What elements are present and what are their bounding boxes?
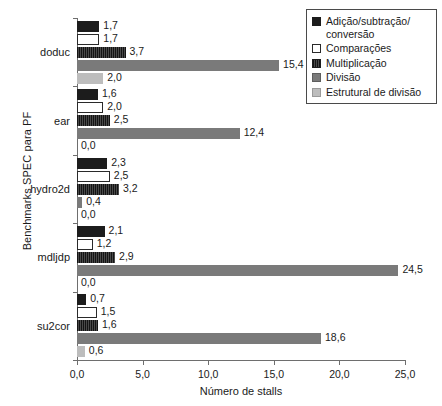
- bar-group: mdljdp2,11,22,924,50,0: [77, 225, 405, 290]
- x-axis-title: Número de stalls: [77, 385, 405, 397]
- bar: [77, 171, 110, 182]
- bar-value-label: 2,5: [114, 169, 129, 182]
- x-axis-tick-label: 15,0: [264, 368, 284, 380]
- x-axis-tick: [77, 360, 78, 365]
- bar: [77, 197, 82, 208]
- x-axis-tick: [405, 360, 406, 365]
- bar-value-label: 2,3: [111, 156, 126, 169]
- bar-row: 2,9: [77, 251, 405, 264]
- bar-value-label: 1,7: [103, 19, 118, 32]
- bar-group: su2cor0,71,51,618,60,6: [77, 293, 405, 358]
- bar: [77, 239, 93, 250]
- bar: [77, 21, 99, 32]
- bar: [77, 346, 85, 357]
- bar-value-label: 3,7: [130, 45, 145, 58]
- legend-label: Estrutural de divisão: [326, 86, 421, 99]
- category-label: doduc: [40, 46, 70, 58]
- bar-row: 0,0: [77, 277, 405, 290]
- bar: [77, 320, 98, 331]
- bar-value-label: 3,2: [123, 182, 138, 195]
- bar-value-label: 1,6: [102, 318, 117, 331]
- x-axis-tick: [208, 360, 209, 365]
- bar-row: 12,4: [77, 127, 405, 140]
- bar-row: 0,0: [77, 209, 405, 222]
- bar-value-label: 2,0: [107, 100, 122, 113]
- bar-row: 2,5: [77, 114, 405, 127]
- bar-row: 0,0: [77, 140, 405, 153]
- y-axis-title: Benchmarks SPEC para PF: [21, 61, 33, 301]
- x-axis-tick-label: 10,0: [198, 368, 218, 380]
- legend-item: Estrutural de divisão: [312, 86, 432, 99]
- bar-value-label: 0,7: [90, 292, 105, 305]
- bar: [77, 115, 110, 126]
- bar-value-label: 0,4: [86, 195, 101, 208]
- legend-swatch-comparacoes: [312, 44, 321, 53]
- bar-row: 1,5: [77, 306, 405, 319]
- bar-value-label: 2,0: [107, 71, 122, 84]
- bar-chart: Benchmarks SPEC para PF 0,05,010,015,020…: [0, 0, 442, 406]
- bar-value-label: 15,4: [283, 58, 303, 71]
- legend-swatch-estrutural: [312, 88, 321, 97]
- legend-label: Adição/subtração/ conversão: [326, 15, 432, 40]
- x-axis-tick-label: 20,0: [329, 368, 349, 380]
- legend-label: Multiplicação: [326, 57, 387, 70]
- bar-value-label: 1,2: [97, 237, 112, 250]
- bar: [77, 128, 240, 139]
- x-axis-tick: [274, 360, 275, 365]
- x-axis-tick: [143, 360, 144, 365]
- bar: [77, 226, 105, 237]
- x-axis-tick-label: 0,0: [70, 368, 85, 380]
- bar: [77, 60, 279, 71]
- bar-value-label: 0,0: [81, 208, 96, 221]
- bar: [77, 158, 107, 169]
- bar-value-label: 0,6: [89, 344, 104, 357]
- bar-row: 0,6: [77, 345, 405, 358]
- x-axis-tick-label: 5,0: [135, 368, 150, 380]
- bar: [77, 47, 126, 58]
- bar-row: 3,2: [77, 183, 405, 196]
- bar-row: 2,1: [77, 225, 405, 238]
- bar-value-label: 0,0: [81, 276, 96, 289]
- bar-row: 0,7: [77, 293, 405, 306]
- category-label: hydro2d: [30, 183, 70, 195]
- bar-value-label: 1,7: [103, 32, 118, 45]
- legend-item: Divisão: [312, 71, 432, 84]
- bar: [77, 34, 99, 45]
- legend-item: Comparações: [312, 42, 432, 55]
- chart-legend: Adição/subtração/ conversãoComparaçõesMu…: [306, 9, 437, 104]
- bar: [77, 89, 98, 100]
- bar-value-label: 12,4: [244, 126, 264, 139]
- bar: [77, 294, 86, 305]
- bar-value-label: 24,5: [402, 263, 422, 276]
- legend-item: Adição/subtração/ conversão: [312, 15, 432, 40]
- legend-swatch-multiplicacao: [312, 59, 321, 68]
- bar: [77, 102, 103, 113]
- bar: [77, 73, 103, 84]
- bar-row: 1,6: [77, 319, 405, 332]
- bar: [77, 307, 97, 318]
- x-axis-tick-label: 25,0: [395, 368, 415, 380]
- legend-swatch-divisao: [312, 73, 321, 82]
- bar-group: hydro2d2,32,53,20,40,0: [77, 157, 405, 222]
- bar-value-label: 0,0: [81, 139, 96, 152]
- bar-value-label: 1,5: [101, 305, 116, 318]
- bar: [77, 265, 398, 276]
- bar-row: 24,5: [77, 264, 405, 277]
- bar-value-label: 2,1: [109, 224, 124, 237]
- bar-value-label: 2,5: [114, 113, 129, 126]
- bar-value-label: 2,9: [119, 250, 134, 263]
- x-axis-line: [77, 360, 405, 361]
- legend-item: Multiplicação: [312, 57, 432, 70]
- bar-value-label: 18,6: [325, 331, 345, 344]
- legend-label: Divisão: [326, 71, 360, 84]
- bar-row: 0,4: [77, 196, 405, 209]
- bar: [77, 252, 115, 263]
- bar: [77, 184, 119, 195]
- category-label: ear: [54, 115, 70, 127]
- bar-value-label: 1,6: [102, 87, 117, 100]
- x-axis-tick: [339, 360, 340, 365]
- legend-label: Comparações: [326, 42, 391, 55]
- bar: [77, 333, 321, 344]
- bar-row: 18,6: [77, 332, 405, 345]
- category-label: su2cor: [37, 320, 70, 332]
